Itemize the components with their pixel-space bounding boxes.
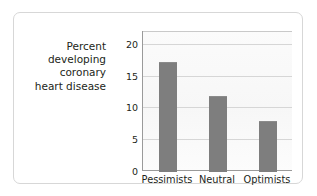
y-tick-label-15: 15 (117, 70, 138, 81)
bar-pessimists (159, 62, 177, 172)
x-label-pessimists: Pessimists (142, 174, 193, 185)
y-tick-label-20: 20 (117, 38, 138, 49)
x-label-optimists: Optimists (244, 174, 291, 185)
plot-area (142, 31, 292, 171)
y-tick-label-5: 5 (117, 134, 138, 145)
y-axis-title: Percent developing coronary heart diseas… (18, 40, 106, 93)
plot-wrapper: 20 15 10 5 0 Pessimists Neutral Optimist… (117, 31, 292, 178)
y-tick-label-0: 0 (117, 166, 138, 177)
plot-top-rule (143, 31, 292, 32)
bar-neutral (209, 96, 227, 172)
chart-card: Percent developing coronary heart diseas… (13, 12, 303, 184)
bar-optimists (259, 121, 277, 172)
gridline-20 (143, 44, 292, 45)
y-tick-label-10: 10 (117, 102, 138, 113)
x-axis-category-labels: Pessimists Neutral Optimists (142, 174, 292, 190)
x-label-neutral: Neutral (199, 174, 235, 185)
y-axis-tick-labels: 20 15 10 5 0 (117, 31, 138, 178)
